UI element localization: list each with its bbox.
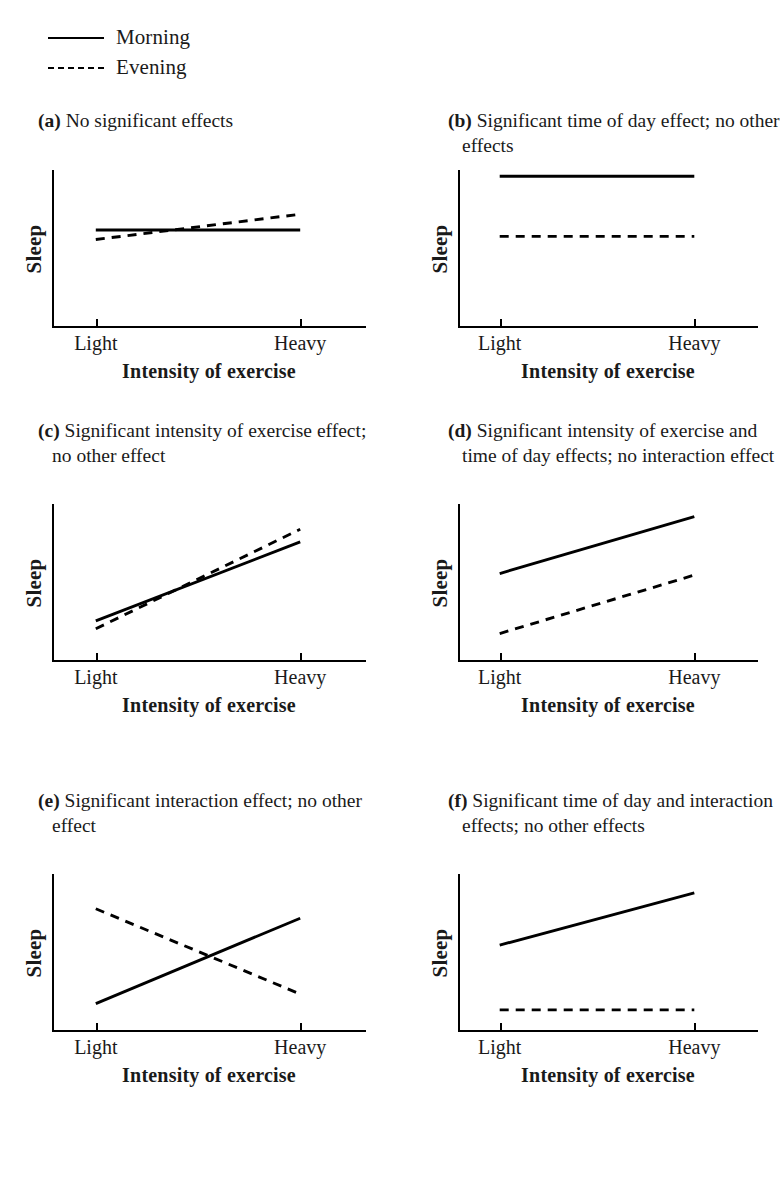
series-line-morning (500, 517, 695, 574)
x-tick-label-light: Light (74, 666, 117, 689)
panel-b-caption: (b) Significant time of day effect; no o… (448, 108, 780, 158)
panel-f-tag: (f) (448, 790, 467, 811)
solid-line-icon (48, 31, 104, 43)
panel-e-plot: Sleep Light Heavy Intensity of exercise (52, 874, 344, 1032)
x-axis-title: Intensity of exercise (52, 360, 366, 383)
panel-c-tag: (c) (38, 420, 60, 441)
panel-c: (c) Significant intensity of exercise ef… (0, 418, 386, 790)
panel-f-caption: (f) Significant time of day and interact… (448, 788, 780, 838)
panel-a-caption: (a) No significant effects (38, 108, 382, 133)
panel-e-caption: (e) Significant interaction effect; no o… (38, 788, 382, 838)
x-tick-label-light: Light (478, 332, 521, 355)
panel-c-caption: (c) Significant intensity of exercise ef… (38, 418, 382, 468)
panel-e-tag: (e) (38, 790, 60, 811)
x-tick-label-heavy: Heavy (274, 666, 326, 689)
series-line-morning (96, 542, 300, 621)
x-axis-title: Intensity of exercise (458, 360, 758, 383)
y-axis-title: Sleep (22, 225, 47, 274)
panel-a-caption-text: No significant effects (66, 110, 234, 131)
y-axis-title: Sleep (428, 559, 453, 608)
x-axis-title: Intensity of exercise (52, 1064, 366, 1087)
panel-c-plot: Sleep Light Heavy Intensity of exercise (52, 504, 344, 662)
x-tick-label-light: Light (74, 1036, 117, 1059)
legend-item-evening: Evening (48, 52, 348, 82)
x-tick-label-light: Light (74, 332, 117, 355)
panel-d: (d) Significant intensity of exercise an… (386, 418, 772, 790)
legend-label-evening: Evening (116, 57, 187, 78)
x-axis-title: Intensity of exercise (52, 694, 366, 717)
panel-f-plot: Sleep Light Heavy Intensity of exercise (458, 874, 736, 1032)
x-tick-label-heavy: Heavy (668, 1036, 720, 1059)
y-axis-title: Sleep (428, 225, 453, 274)
dashed-line-icon (48, 61, 104, 73)
legend-label-morning: Morning (116, 27, 190, 48)
panel-b-tag: (b) (448, 110, 472, 131)
x-tick-label-heavy: Heavy (274, 1036, 326, 1059)
panel-b-plot: Sleep Light Heavy Intensity of exercise (458, 170, 736, 328)
x-axis-title: Intensity of exercise (458, 694, 758, 717)
figure-legend: Morning Evening (48, 22, 348, 82)
x-tick-label-heavy: Heavy (668, 332, 720, 355)
panel-d-tag: (d) (448, 420, 472, 441)
panel-b-series (458, 170, 736, 328)
panel-c-caption-text: Significant intensity of exercise effect… (52, 420, 366, 466)
x-tick-label-light: Light (478, 1036, 521, 1059)
panel-d-caption: (d) Significant intensity of exercise an… (448, 418, 780, 468)
panel-a-tag: (a) (38, 110, 61, 131)
panel-f: (f) Significant time of day and interact… (386, 788, 772, 1160)
panel-f-caption-text: Significant time of day and interaction … (462, 790, 773, 836)
series-line-morning (500, 893, 695, 945)
panel-a-series (52, 170, 344, 328)
panel-e-series (52, 874, 344, 1032)
panel-d-series (458, 504, 736, 662)
panel-a-plot: Sleep Light Heavy Intensity of exercise (52, 170, 344, 328)
panel-b-caption-text: Significant time of day effect; no other… (462, 110, 780, 156)
series-line-evening (500, 575, 695, 633)
series-line-evening (96, 909, 300, 994)
series-line-morning (96, 918, 300, 1003)
y-axis-title: Sleep (22, 559, 47, 608)
panel-e: (e) Significant interaction effect; no o… (0, 788, 386, 1160)
x-tick-label-heavy: Heavy (274, 332, 326, 355)
x-tick-label-light: Light (478, 666, 521, 689)
panel-d-plot: Sleep Light Heavy Intensity of exercise (458, 504, 736, 662)
series-line-evening (96, 529, 300, 629)
legend-item-morning: Morning (48, 22, 348, 52)
panel-e-caption-text: Significant interaction effect; no other… (52, 790, 362, 836)
series-line-evening (96, 214, 300, 239)
y-axis-title: Sleep (22, 929, 47, 978)
y-axis-title: Sleep (428, 929, 453, 978)
panel-f-series (458, 874, 736, 1032)
x-axis-title: Intensity of exercise (458, 1064, 758, 1087)
x-tick-label-heavy: Heavy (668, 666, 720, 689)
panel-c-series (52, 504, 344, 662)
panel-d-caption-text: Significant intensity of exercise and ti… (462, 420, 774, 466)
